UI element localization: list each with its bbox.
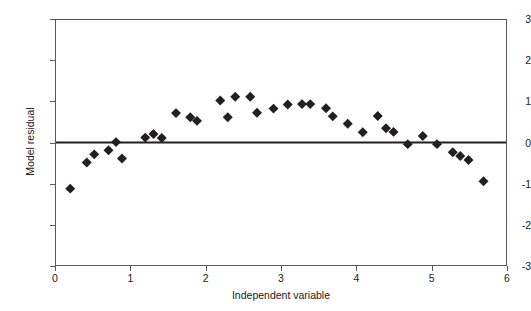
data-point (252, 108, 262, 118)
data-point (245, 92, 255, 102)
data-point (111, 137, 121, 147)
data-point (157, 133, 167, 143)
data-point (104, 145, 114, 155)
data-point (223, 112, 233, 122)
x-tick-label: 1 (118, 273, 142, 284)
data-point (283, 100, 293, 110)
x-tick-label: 0 (43, 273, 67, 284)
x-tick-mark (130, 266, 131, 271)
x-tick-mark (55, 266, 56, 271)
data-point (215, 95, 225, 105)
data-point (403, 139, 413, 149)
data-point (328, 111, 338, 121)
x-tick-mark (281, 266, 282, 271)
data-point (305, 99, 315, 109)
x-tick-mark (356, 266, 357, 271)
x-axis-title: Independent variable (55, 290, 507, 301)
data-point (171, 108, 181, 118)
data-point (65, 184, 75, 194)
x-tick-label: 2 (194, 273, 218, 284)
data-point (343, 119, 353, 129)
x-tick-mark (507, 266, 508, 271)
data-point (321, 103, 331, 113)
data-point (373, 111, 383, 121)
data-point (82, 158, 92, 168)
x-tick-mark (432, 266, 433, 271)
residual-scatter-figure: -3-2-10123 0123456 Independent variable … (0, 0, 531, 311)
x-tick-label: 6 (495, 273, 519, 284)
x-tick-mark (206, 266, 207, 271)
x-tick-label: 3 (269, 273, 293, 284)
data-point (89, 149, 99, 159)
data-point (432, 139, 442, 149)
plot-canvas (56, 20, 506, 265)
data-point (479, 176, 489, 186)
data-point (464, 155, 474, 165)
data-point (418, 131, 428, 141)
x-tick-label: 4 (344, 273, 368, 284)
data-point (117, 153, 127, 163)
x-tick-label: 5 (420, 273, 444, 284)
data-point (358, 127, 368, 137)
y-axis-title: Model residual (25, 62, 36, 222)
data-point (230, 92, 240, 102)
plot-area (55, 19, 507, 266)
data-point (269, 104, 279, 114)
